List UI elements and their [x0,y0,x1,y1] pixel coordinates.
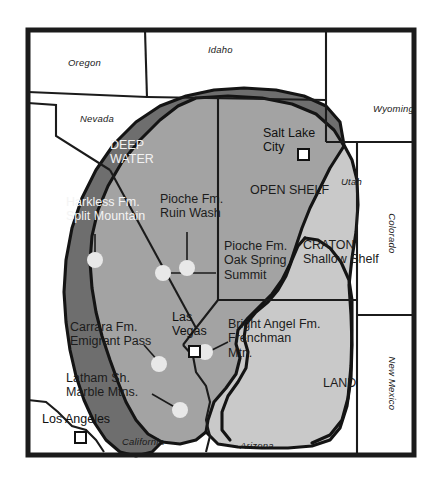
locality-label-carrara: Carrara Fm. Emigrant Pass [70,320,151,349]
state-label-utah: Utah [341,177,362,188]
paleogeographic-map: Oregon Idaho Nevada Wyoming Utah Colorad… [0,0,442,479]
region-label-land: LAND [323,376,356,390]
state-label-arizona: Arizona [240,441,274,452]
state-label-colorado: Colorado [387,213,398,253]
locality-label-harkless: Harkless Fm. Split Mountain [66,195,145,224]
state-label-new-mexico: New Mexico [387,356,398,410]
locality-label-pioche-oak-spring: Pioche Fm. Oak Spring Summit [224,239,287,282]
dot-pioche-ruin [179,260,195,276]
dot-pioche-oak [155,265,171,281]
locality-label-latham: Latham Sh. Marble Mtns. [66,371,138,400]
square-city-marker-las-vegas [188,345,201,358]
locality-label-bright-angel: Bright Angel Fm. Frenchman Mtn. [228,317,320,360]
region-label-craton-shallow-shelf: CRATON Shallow Shelf [303,238,379,267]
state-label-wyoming: Wyoming [373,104,414,115]
state-label-idaho: Idaho [208,45,233,56]
dot-carrara [151,356,167,372]
dot-harkless [87,252,103,268]
city-label-las-vegas: Las Vegas [172,311,207,339]
region-label-deep-water: DEEP WATER [110,138,154,167]
region-label-open-shelf: OPEN SHELF [250,183,329,197]
square-city-marker-los-angeles [74,431,87,444]
state-label-california: California [122,437,164,448]
dot-latham [172,402,188,418]
state-label-oregon: Oregon [68,58,101,69]
locality-label-pioche-ruin-wash: Pioche Fm. Ruin Wash [160,192,223,221]
state-label-nevada: Nevada [80,114,114,125]
city-label-los-angeles: Los Angeles [42,413,110,427]
square-city-marker-salt-lake-city [297,148,310,161]
